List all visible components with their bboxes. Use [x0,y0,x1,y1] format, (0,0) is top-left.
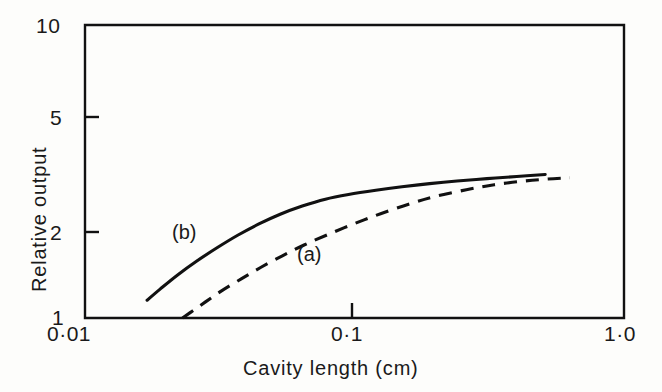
curve-annotation-b: (b) [172,221,196,244]
axes-frame [85,25,624,318]
y-tick-label-5: 5 [50,106,62,130]
chart-figure: 10 5 2 1 0·01 0·1 1·0 Cavity length (cm)… [0,0,662,392]
y-axis-title: Relative output [28,147,51,292]
y-tick-label-10: 10 [36,14,60,38]
x-tick-label-0-1: 0·1 [331,322,363,346]
data-curve-b [147,174,545,300]
x-tick-label-1-0: 1·0 [604,322,636,346]
y-tick-label-2: 2 [50,221,62,245]
x-axis-title: Cavity length (cm) [243,357,419,380]
data-curve-a [182,178,569,318]
curve-annotation-a: (a) [297,243,321,266]
x-tick-label-0-01: 0·01 [47,322,91,346]
